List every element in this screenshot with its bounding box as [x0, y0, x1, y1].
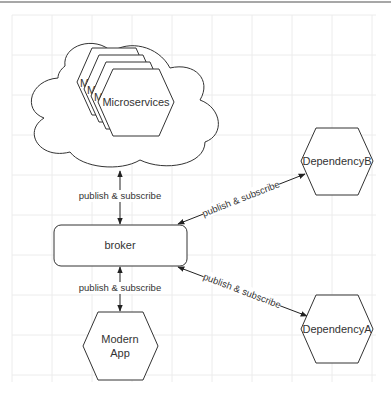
edge-label-broker-modern-app: publish & subscribe	[79, 282, 161, 293]
edge-cloud-broker[interactable]: publish & subscribe	[79, 171, 161, 224]
edge-broker-dependency-b[interactable]: publish & subscribe	[178, 174, 305, 224]
modern-app-label-line-2: App	[110, 347, 130, 359]
dependency-b-label: DependencyB	[302, 155, 371, 167]
edge-label-broker-dependency-b: publish & subscribe	[200, 178, 281, 218]
microservices-label: Microservices	[102, 96, 170, 108]
dependency-a-label: DependencyA	[302, 323, 372, 335]
edge-label-cloud-broker: publish & subscribe	[79, 190, 161, 201]
modern-app-hexagon[interactable]	[83, 312, 158, 380]
edge-broker-dependency-a[interactable]: publish & subscribe	[178, 267, 307, 316]
diagram-canvas: M M M Microservices publish & subscribe …	[0, 0, 391, 394]
edge-label-broker-dependency-a: publish & subscribe	[202, 271, 283, 311]
modern-app-label-line-1: Modern	[101, 333, 138, 345]
broker-label: broker	[104, 239, 136, 251]
edge-broker-modern-app[interactable]: publish & subscribe	[79, 267, 161, 311]
